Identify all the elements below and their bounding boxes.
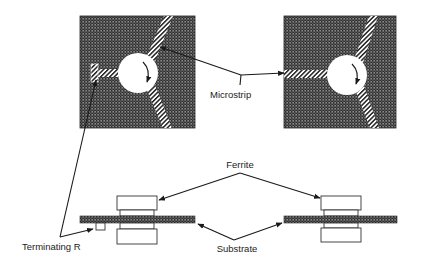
spacer-upper [324, 210, 358, 216]
terminating-resistor-side [96, 223, 105, 230]
junction-disk [118, 53, 158, 93]
microstrip-arm-left [284, 70, 330, 78]
spacer-lower [120, 223, 154, 229]
ferrite-label: Ferrite [226, 159, 253, 170]
isolator-side-view [80, 196, 195, 244]
ferrite-upper [321, 196, 361, 210]
ferrite-lower [321, 228, 361, 242]
junction-disk [327, 55, 367, 95]
ferrite-lower [117, 229, 157, 244]
spacer-lower [324, 223, 358, 228]
ferrite-callout: Ferrite [159, 159, 320, 200]
circulator-side-view [284, 196, 397, 242]
microstrip-label: Microstrip [210, 89, 251, 100]
substrate-bar [284, 216, 397, 223]
ferrite-upper [117, 196, 157, 210]
substrate-bar [80, 216, 195, 223]
circulator-top-view [284, 16, 396, 128]
terminating-resistor [91, 64, 98, 82]
circulator-diagram: Microstrip Ferrite Substrate Terminating… [0, 0, 423, 267]
substrate-label: Substrate [217, 243, 258, 254]
substrate-callout: Substrate [198, 223, 282, 254]
terminating-r-label: Terminating R [22, 241, 81, 252]
isolator-top-view [80, 16, 195, 128]
spacer-upper [120, 210, 154, 216]
